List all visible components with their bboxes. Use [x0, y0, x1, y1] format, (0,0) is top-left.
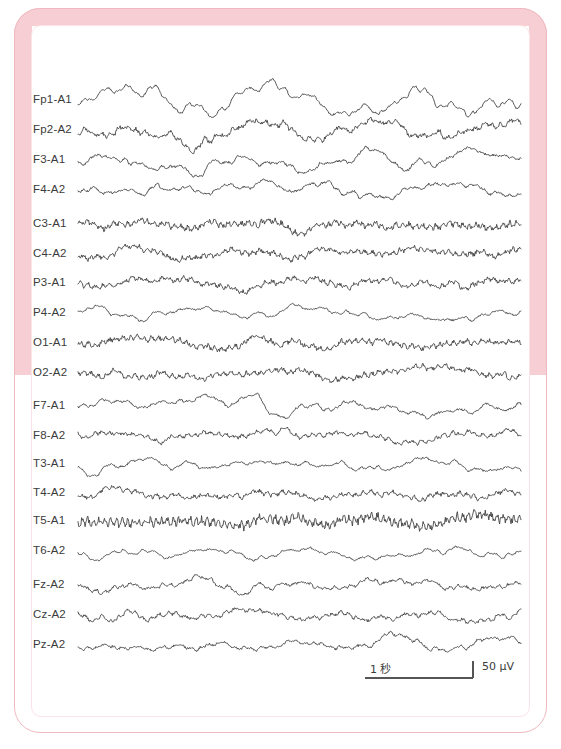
eeg-trace-group [0, 0, 561, 749]
eeg-trace-f4-a2 [78, 179, 521, 200]
channel-label-fp1-a1: Fp1-A1 [33, 94, 72, 106]
channel-label-c3-a1: C3-A1 [33, 218, 67, 230]
channel-label-f4-a2: F4-A2 [33, 184, 65, 196]
channel-label-cz-a2: Cz-A2 [33, 609, 66, 621]
channel-label-t4-a2: T4-A2 [33, 487, 65, 499]
time-scale-label: 1 秒 [370, 660, 392, 676]
eeg-trace-t6-a2 [78, 546, 521, 561]
eeg-trace-fp2-a2 [78, 117, 521, 154]
channel-label-p3-a1: P3-A1 [33, 277, 66, 289]
channel-label-pz-a2: Pz-A2 [33, 639, 65, 651]
eeg-chart: Fp1-A1Fp2-A2F3-A1F4-A2C3-A1C4-A2P3-A1P4-… [0, 0, 561, 749]
eeg-trace-f7-a1 [78, 393, 521, 419]
eeg-trace-t4-a2 [78, 486, 521, 502]
channel-label-t5-a1: T5-A1 [33, 515, 65, 527]
amplitude-scale-line [472, 661, 474, 678]
channel-label-fp2-a2: Fp2-A2 [33, 124, 72, 136]
channel-label-t6-a2: T6-A2 [33, 545, 65, 557]
eeg-trace-c4-a2 [78, 244, 521, 263]
eeg-trace-p4-a2 [78, 303, 521, 322]
channel-label-t3-a1: T3-A1 [33, 458, 65, 470]
channel-label-c4-a2: C4-A2 [33, 248, 67, 260]
eeg-trace-p3-a1 [78, 275, 521, 294]
eeg-trace-cz-a2 [78, 608, 521, 624]
eeg-trace-fp1-a1 [78, 79, 521, 118]
scale-bar: 1 秒 50 μV [365, 655, 525, 689]
channel-label-fz-a2: Fz-A2 [33, 579, 65, 591]
channel-label-f8-a2: F8-A2 [33, 430, 65, 442]
time-scale-line [365, 677, 473, 679]
channel-label-o1-a1: O1-A1 [33, 337, 67, 349]
eeg-trace-pz-a2 [78, 631, 521, 652]
eeg-trace-t3-a1 [78, 457, 521, 476]
channel-label-p4-a2: P4-A2 [33, 307, 66, 319]
eeg-trace-f3-a1 [78, 146, 521, 177]
amplitude-scale-label: 50 μV [482, 660, 514, 673]
eeg-trace-o1-a1 [78, 334, 521, 352]
channel-label-f3-a1: F3-A1 [33, 154, 65, 166]
eeg-trace-fz-a2 [78, 575, 521, 596]
eeg-trace-t5-a1 [78, 509, 521, 531]
eeg-trace-c3-a1 [78, 218, 521, 237]
channel-label-f7-a1: F7-A1 [33, 400, 65, 412]
eeg-trace-f8-a2 [78, 427, 521, 446]
eeg-page: Fp1-A1Fp2-A2F3-A1F4-A2C3-A1C4-A2P3-A1P4-… [0, 0, 561, 749]
channel-label-o2-a2: O2-A2 [33, 367, 67, 379]
eeg-trace-o2-a2 [78, 363, 521, 382]
